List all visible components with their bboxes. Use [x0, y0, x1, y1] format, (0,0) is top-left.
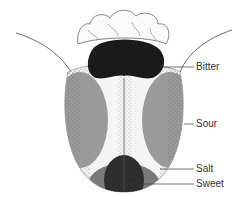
bitter-region [88, 40, 164, 79]
label-salt: Salt [196, 164, 213, 174]
left-cheek-line [16, 33, 72, 74]
label-sour: Sour [196, 119, 217, 129]
label-bitter: Bitter [196, 62, 219, 72]
tongue-diagram [0, 0, 248, 205]
label-sweet: Sweet [196, 179, 224, 189]
